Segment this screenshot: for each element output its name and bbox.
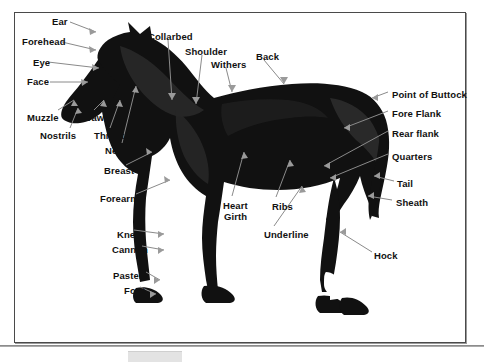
label-cannon: Cannon — [112, 244, 148, 255]
label-sheath: Sheath — [396, 197, 428, 208]
label-quarters: Quarters — [392, 151, 432, 162]
label-eye: Eye — [33, 57, 50, 68]
label-neck: Neck — [105, 145, 128, 156]
label-point-of-buttock: Point of Buttock — [392, 89, 467, 100]
label-withers: Withers — [211, 59, 246, 70]
label-heart-girth-line2: Girth — [224, 211, 247, 222]
label-collarbed: Collarbed — [148, 31, 193, 42]
label-heart-girth-line1: Heart — [223, 200, 248, 211]
label-muzzle: Muzzle — [27, 112, 59, 123]
label-rear-flank: Rear flank — [392, 128, 439, 139]
label-underline: Underline — [264, 229, 309, 240]
label-jaw: Jaw — [86, 112, 104, 123]
label-foot: Foot — [124, 285, 145, 296]
label-forearm: Forearm — [100, 193, 139, 204]
image-placeholder — [128, 351, 182, 362]
label-ribs: Ribs — [272, 201, 293, 212]
page-divider — [0, 345, 484, 347]
label-back: Back — [256, 51, 279, 62]
label-breast: Breast — [104, 165, 134, 176]
label-ear: Ear — [52, 16, 68, 27]
label-face: Face — [27, 76, 49, 87]
label-pastern: Pastern — [113, 270, 149, 281]
label-forehead: Forehead — [22, 36, 66, 47]
label-tail: Tail — [397, 178, 413, 189]
label-fore-flank: Fore Flank — [392, 108, 441, 119]
label-knee: Knee — [117, 229, 141, 240]
label-throat: Throat — [94, 130, 124, 141]
label-hock: Hock — [374, 250, 398, 261]
label-shoulder: Shoulder — [185, 46, 227, 57]
label-nostrils: Nostrils — [40, 130, 76, 141]
